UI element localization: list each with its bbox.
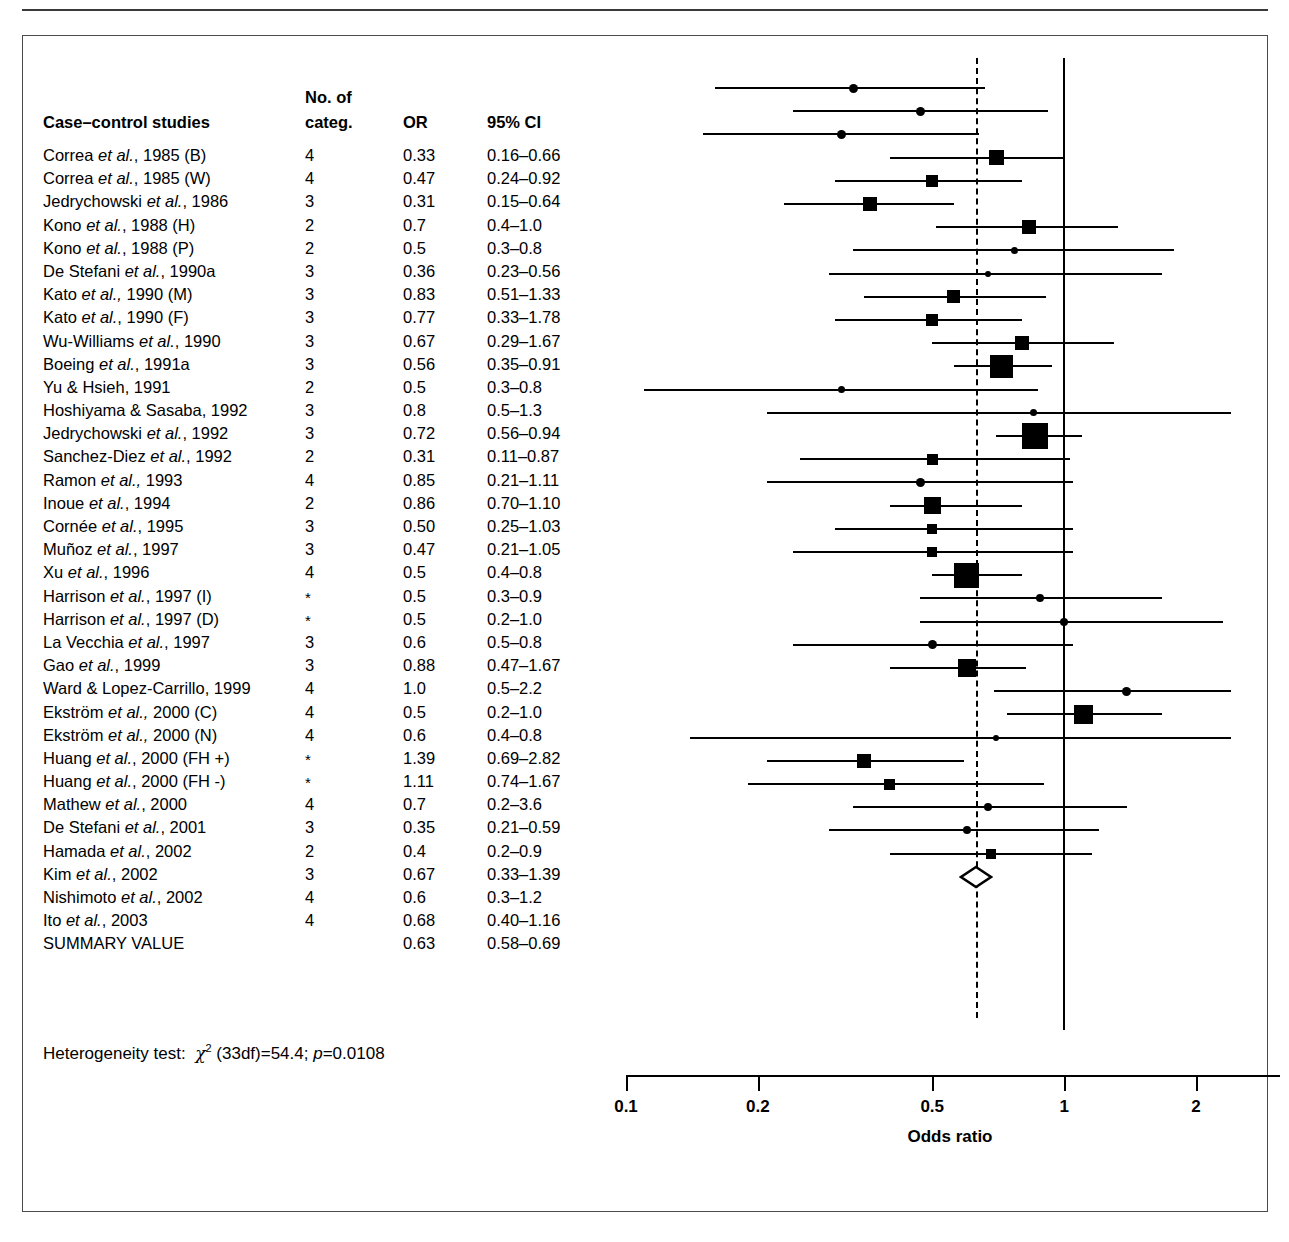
cell-study: Ekström et al., 2000 (N) [43,726,217,745]
cell-study: Hoshiyama & Sasaba, 1992 [43,401,248,420]
heterogeneity-test: Heterogeneity test: χ2 (33df)=54.4; p=0.… [43,1042,385,1064]
et-al-italic: et al. [125,262,161,280]
table-row: Huang et al., 2000 (FH +)*1.390.69–2.82 [43,749,643,772]
cell-study: Ward & Lopez-Carrillo, 1999 [43,679,251,698]
axis-line [626,1075,1280,1077]
cell-or: 1.39 [403,749,435,768]
effect-marker [1036,594,1044,602]
axis-tick-label: 0.5 [920,1097,944,1117]
axis-tick [1064,1075,1066,1091]
cell-ci: 0.4–0.8 [487,726,542,745]
cell-categories: 2 [305,239,314,258]
cell-study: Sanchez-Diez et al., 1992 [43,447,232,466]
cell-ci: 0.33–1.39 [487,865,560,884]
cell-categories: 4 [305,471,314,490]
et-al-italic: et al. [79,656,115,674]
et-al-italic: et al. [96,749,132,767]
cell-categories: 3 [305,865,314,884]
cell-categories: 4 [305,726,314,745]
table-row: Harrison et al., 1997 (D)*0.50.2–1.0 [43,610,643,633]
cell-study: Wu-Williams et al., 1990 [43,332,221,351]
cell-categories: 2 [305,216,314,235]
cell-ci: 0.16–0.66 [487,146,560,165]
cell-study: Kim et al., 2002 [43,865,158,884]
axis-tick-label: 0.1 [614,1097,638,1117]
cell-or: 0.35 [403,818,435,837]
effect-marker [990,355,1013,378]
cell-study: Huang et al., 2000 (FH +) [43,749,230,768]
cell-study: Correa et al., 1985 (B) [43,146,206,165]
p-value: =0.0108 [323,1044,385,1063]
axis-tick-label: 0.2 [746,1097,770,1117]
axis-tick [626,1075,628,1091]
table-row: Jedrychowski et al., 199230.720.56–0.94 [43,424,643,447]
cell-study: Inoue et al., 1994 [43,494,171,513]
cell-ci: 0.15–0.64 [487,192,560,211]
column-header-or: OR [403,113,428,132]
table-row: Nishimoto et al., 200240.60.3–1.2 [43,888,643,911]
cell-ci: 0.33–1.78 [487,308,560,327]
cell-study: La Vecchia et al., 1997 [43,633,210,652]
cell-categories: 4 [305,888,314,907]
cell-categories: 3 [305,818,314,837]
cell-or: 0.5 [403,703,426,722]
cell-study: Jedrychowski et al., 1992 [43,424,228,443]
cell-ci: 0.4–1.0 [487,216,542,235]
cell-study: Ekström et al., 2000 (C) [43,703,217,722]
table-row: Sanchez-Diez et al., 199220.310.11–0.87 [43,447,643,470]
effect-marker [916,478,925,487]
cell-or: 0.6 [403,888,426,907]
table-row: Muñoz et al., 199730.470.21–1.05 [43,540,643,563]
effect-marker [838,386,845,393]
table-row: Huang et al., 2000 (FH -)*1.110.74–1.67 [43,772,643,795]
cell-or: 0.31 [403,192,435,211]
effect-marker [1074,705,1093,724]
cell-or: 0.83 [403,285,435,304]
cell-ci: 0.69–2.82 [487,749,560,768]
effect-marker [993,735,999,741]
cell-study: Boeing et al., 1991a [43,355,190,374]
cell-ci: 0.35–0.91 [487,355,560,374]
table-row: Correa et al., 1985 (B)40.330.16–0.66 [43,146,643,169]
cell-categories: 4 [305,679,314,698]
cell-study: De Stefani et al., 1990a [43,262,215,281]
cell-or: 0.5 [403,378,426,397]
et-al-italic: et al. [66,911,102,929]
table-row: Cornée et al., 199530.500.25–1.03 [43,517,643,540]
axis-tick [932,1075,934,1091]
table-row: Harrison et al., 1997 (I)*0.50.3–0.9 [43,587,643,610]
effect-marker [884,779,895,790]
cell-study: Mathew et al., 2000 [43,795,187,814]
cell-study: Hamada et al., 2002 [43,842,192,861]
cell-or: 0.5 [403,563,426,582]
table-row: SUMMARY VALUE0.630.58–0.69 [43,934,643,957]
cell-ci: 0.3–1.2 [487,888,542,907]
cell-or: 1.11 [403,772,434,791]
cell-study: Harrison et al., 1997 (D) [43,610,219,629]
table-row: Wu-Williams et al., 199030.670.29–1.67 [43,332,643,355]
confidence-interval-line [748,783,1044,785]
table-row: Boeing et al., 1991a30.560.35–0.91 [43,355,643,378]
cell-ci: 0.56–0.94 [487,424,560,443]
et-al-italic: et al., [101,471,141,489]
cell-categories: * [305,589,311,606]
cell-categories: 2 [305,378,314,397]
cell-categories: * [305,751,311,768]
effect-marker [927,547,937,557]
heterogeneity-stat: (33df)=54.4; [216,1044,308,1063]
et-al-italic: et al. [125,818,161,836]
table-row: Ward & Lopez-Carrillo, 199941.00.5–2.2 [43,679,643,702]
effect-marker [1060,618,1068,626]
cell-or: 0.50 [403,517,435,536]
cell-ci: 0.2–0.9 [487,842,542,861]
et-al-italic: et al. [105,795,141,813]
column-header-ci: 95% CI [487,113,541,132]
cell-ci: 0.5–0.8 [487,633,542,652]
et-al-italic: et al. [82,308,118,326]
heterogeneity-prefix: Heterogeneity test: [43,1044,186,1063]
cell-ci: 0.58–0.69 [487,934,560,953]
cell-study: Jedrychowski et al., 1986 [43,192,228,211]
cell-ci: 0.70–1.10 [487,494,560,513]
confidence-interval-line [767,412,1231,414]
cell-ci: 0.11–0.87 [487,447,559,466]
